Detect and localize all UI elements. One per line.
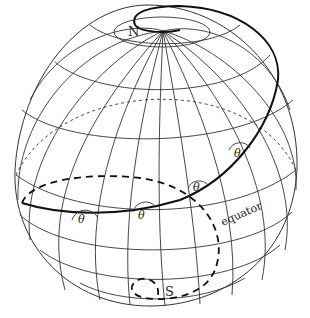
north-pole-label: N <box>128 24 139 39</box>
theta-label-4: θ <box>78 213 85 226</box>
south-pole-label: S <box>165 284 174 299</box>
globe-diagram: N S equator θ θ θ θ <box>0 0 310 318</box>
meridians <box>18 28 296 306</box>
theta-label-2: θ <box>193 181 200 194</box>
loxodrome <box>22 6 278 213</box>
theta-label-3: θ <box>138 209 145 222</box>
theta-label-1: θ <box>234 147 241 160</box>
globe-svg: N S equator θ θ θ θ <box>0 0 310 318</box>
